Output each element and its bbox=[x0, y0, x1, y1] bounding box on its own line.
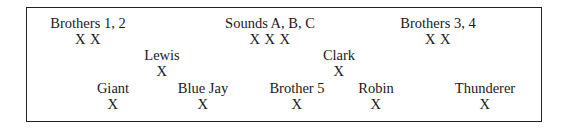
group-marks: X bbox=[92, 63, 232, 79]
group-brothers-3-4: Brothers 3, 4 X X bbox=[368, 15, 508, 47]
group-clark: Clark X bbox=[269, 47, 409, 79]
group-lewis: Lewis X bbox=[92, 47, 232, 79]
group-sounds-a-b-c: Sounds A, B, C X X X bbox=[200, 15, 340, 47]
group-brothers-1-2: Brothers 1, 2 X X bbox=[18, 15, 158, 47]
group-label: Brothers 3, 4 bbox=[368, 15, 508, 31]
group-label: Clark bbox=[269, 47, 409, 63]
group-marks: X X bbox=[18, 31, 158, 47]
group-marks: X bbox=[269, 63, 409, 79]
group-label: Thunderer bbox=[415, 80, 555, 96]
group-marks: X X bbox=[368, 31, 508, 47]
group-label: Brothers 1, 2 bbox=[18, 15, 158, 31]
group-thunderer: Thunderer X bbox=[415, 80, 555, 112]
group-label: Lewis bbox=[92, 47, 232, 63]
group-marks: X X X bbox=[200, 31, 340, 47]
group-marks: X bbox=[415, 96, 555, 112]
group-label: Sounds A, B, C bbox=[200, 15, 340, 31]
